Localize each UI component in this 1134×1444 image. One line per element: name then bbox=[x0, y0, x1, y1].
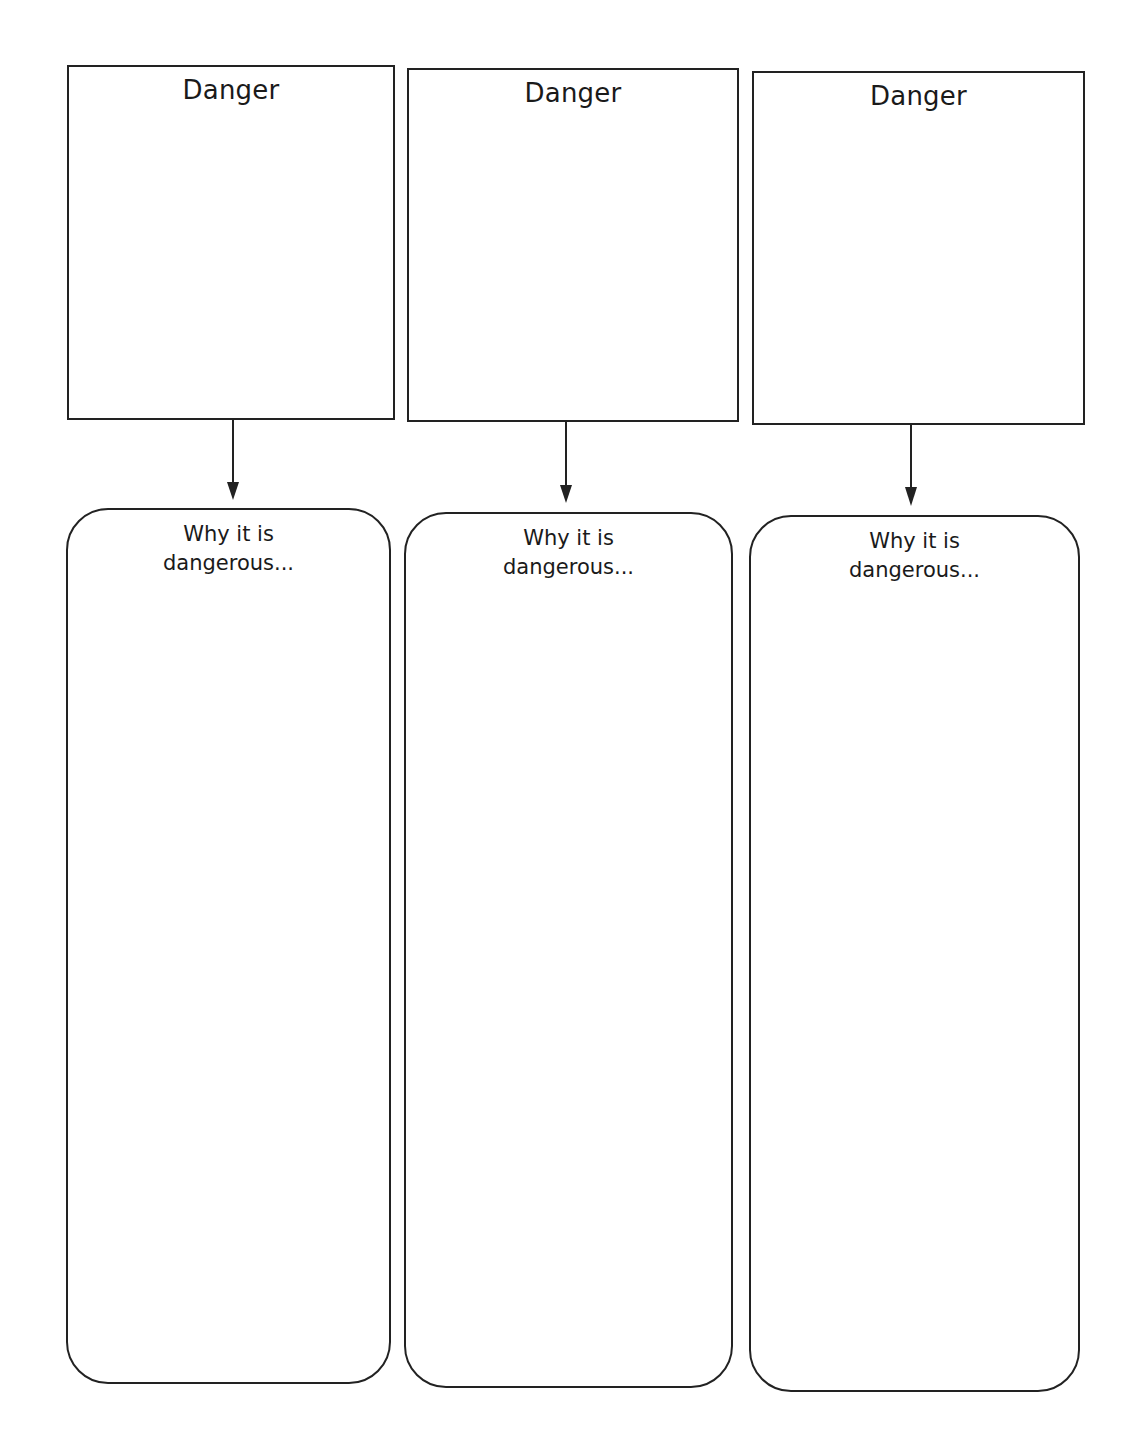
reason-label-line-1: Why it is bbox=[68, 520, 389, 549]
reason-label: Why it is dangerous... bbox=[406, 524, 731, 582]
danger-box-2[interactable]: Danger bbox=[407, 68, 739, 422]
reason-label-line-2: dangerous... bbox=[751, 556, 1078, 585]
arrow-down-icon bbox=[560, 421, 572, 503]
reason-box-3[interactable]: Why it is dangerous... bbox=[749, 515, 1080, 1392]
danger-box-3[interactable]: Danger bbox=[752, 71, 1085, 425]
arrow-down-icon bbox=[227, 419, 239, 500]
reason-box-2[interactable]: Why it is dangerous... bbox=[404, 512, 733, 1388]
reason-label: Why it is dangerous... bbox=[751, 527, 1078, 585]
reason-label: Why it is dangerous... bbox=[68, 520, 389, 578]
reason-box-1[interactable]: Why it is dangerous... bbox=[66, 508, 391, 1384]
reason-label-line-2: dangerous... bbox=[406, 553, 731, 582]
reason-label-line-1: Why it is bbox=[751, 527, 1078, 556]
danger-label: Danger bbox=[754, 81, 1083, 111]
danger-label: Danger bbox=[69, 75, 393, 105]
arrow-down-icon bbox=[905, 424, 917, 506]
reason-label-line-1: Why it is bbox=[406, 524, 731, 553]
danger-box-1[interactable]: Danger bbox=[67, 65, 395, 420]
reason-label-line-2: dangerous... bbox=[68, 549, 389, 578]
danger-label: Danger bbox=[409, 78, 737, 108]
